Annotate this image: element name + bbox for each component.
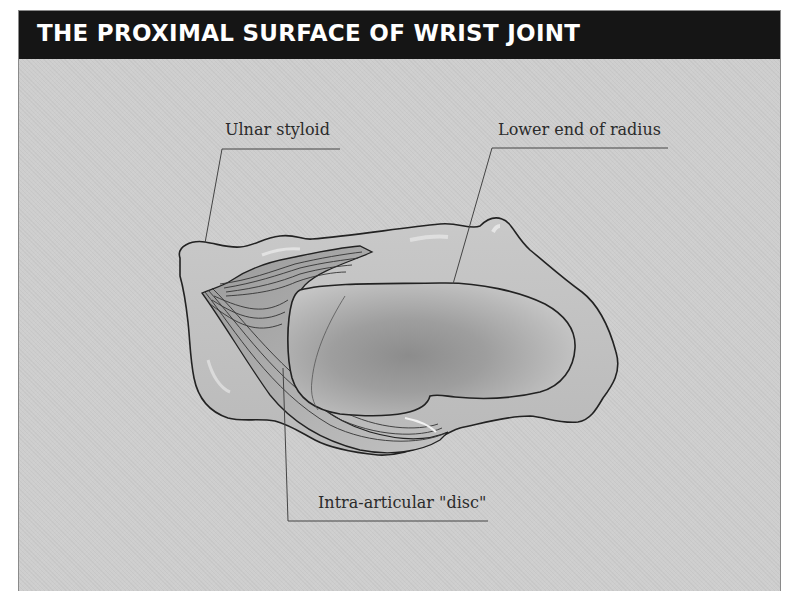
leader-ulnar-styloid (205, 149, 340, 243)
wrist-joint-illustration (0, 0, 791, 606)
label-lower-end-of-radius: Lower end of radius (498, 120, 661, 139)
label-ulnar-styloid: Ulnar styloid (225, 120, 330, 139)
label-intra-articular-disc: Intra-articular "disc" (318, 493, 486, 512)
